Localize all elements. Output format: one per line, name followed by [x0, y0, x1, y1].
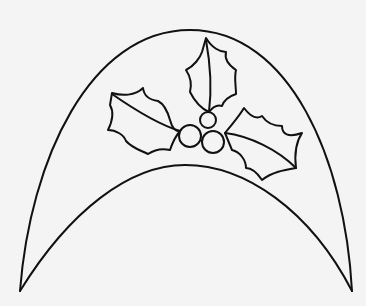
holly-arch-illustration	[0, 0, 366, 306]
berry-left	[179, 125, 201, 147]
berry-right	[202, 131, 224, 153]
berry-top	[200, 112, 216, 128]
inner-arch	[20, 165, 352, 291]
coloring-page-drawing	[0, 0, 366, 306]
